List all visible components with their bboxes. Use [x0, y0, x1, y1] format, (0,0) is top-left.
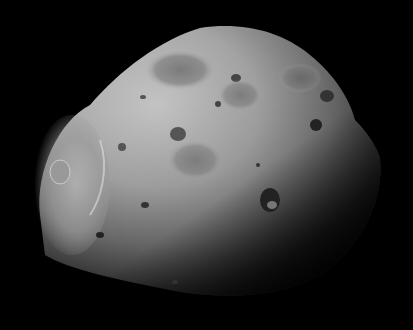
crater: [278, 63, 322, 93]
crater: [145, 50, 215, 90]
moon-illustration: [0, 0, 413, 330]
crater: [167, 140, 223, 180]
crater: [218, 79, 262, 111]
crater: [170, 127, 186, 141]
crater: [310, 119, 322, 131]
space-background: [0, 0, 413, 330]
crater: [320, 90, 334, 102]
crater: [118, 143, 126, 151]
